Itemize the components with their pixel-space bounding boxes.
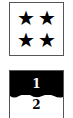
rating-card[interactable]: ★ ★ ★ ★: [9, 2, 64, 56]
star-icon: ★: [37, 7, 59, 29]
page-number-1[interactable]: 1: [10, 78, 63, 90]
star-icon: ★: [15, 29, 37, 51]
page-indicator[interactable]: 1 2: [9, 70, 64, 118]
page-number-2[interactable]: 2: [10, 99, 63, 111]
star-grid: ★ ★ ★ ★: [10, 3, 63, 55]
star-icon: ★: [15, 7, 37, 29]
star-icon: ★: [37, 29, 59, 51]
